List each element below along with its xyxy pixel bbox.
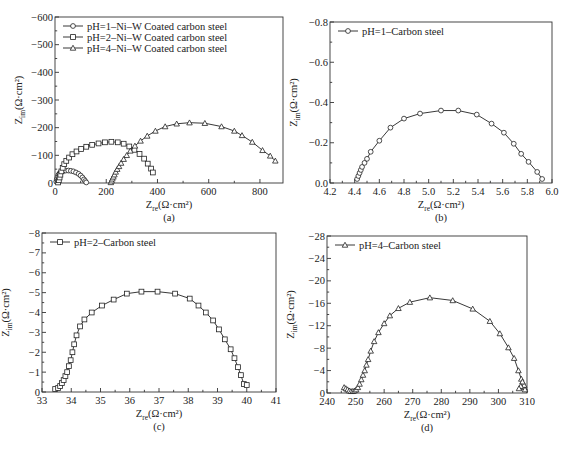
y-axis-title: Zim(Ω·cm²) [13, 75, 27, 124]
x-tick-label: 39 [212, 395, 223, 406]
legend-marker [346, 29, 351, 34]
legend-label: pH=1–Ni–W Coated carbon steel [87, 21, 227, 32]
legend-entry: pH=1–Ni–W Coated carbon steel [63, 21, 227, 32]
y-tick-label: 0 [320, 388, 325, 399]
chart-panel-b: 4.24.44.64.85.05.25.45.65.86.00.0−0.2−0.… [288, 17, 559, 225]
chart-panel-d: 2402502602702802903003100−4−8−12−16−20−2… [285, 231, 535, 435]
x-tick-label: 4.6 [373, 186, 386, 197]
data-point-marker [65, 370, 70, 375]
data-point-marker [217, 327, 222, 332]
legend-marker [71, 35, 76, 40]
data-point-marker [377, 138, 382, 143]
data-point-marker [68, 358, 73, 363]
data-point-marker [84, 144, 89, 149]
data-point-marker [487, 318, 493, 323]
plot-frame [327, 236, 527, 393]
x-axis-title: Zre(Ω·cm²) [146, 199, 193, 213]
data-point-marker [142, 156, 147, 161]
data-point-marker [144, 133, 150, 138]
data-point-marker [511, 355, 517, 360]
legend-entry: pH=4–Carbon steel [335, 240, 441, 251]
x-axis-title: Zre(Ω·cm²) [136, 408, 183, 422]
data-point-marker [232, 356, 237, 361]
data-point-marker [203, 310, 208, 315]
data-point-marker [365, 156, 370, 161]
series-line [344, 298, 525, 392]
data-point-marker [96, 141, 101, 146]
y-tick-label: −0.4 [309, 97, 329, 108]
x-tick-label: 40 [242, 395, 253, 406]
x-tick-label: 310 [519, 396, 535, 407]
data-point-marker [111, 297, 116, 302]
data-point-marker [196, 303, 201, 308]
data-point-marker [516, 368, 522, 373]
x-tick-label: 37 [154, 395, 165, 406]
x-tick-label: 5.4 [471, 186, 485, 197]
data-point-marker [150, 170, 155, 175]
series-line [58, 142, 153, 183]
series-circle [355, 108, 545, 181]
x-tick-label: 600 [201, 186, 217, 197]
y-tick-label: −2 [29, 347, 40, 358]
y-tick-label: −12 [309, 320, 325, 331]
x-tick-label: 41 [271, 395, 282, 406]
y-tick-label: −8 [314, 343, 325, 354]
plot-frame [42, 233, 276, 392]
data-point-marker [239, 373, 244, 378]
data-point-marker [228, 347, 233, 352]
data-point-marker [511, 141, 516, 146]
data-point-marker [474, 112, 479, 117]
series-square [56, 139, 156, 184]
y-tick-label: −500 [31, 39, 53, 50]
data-point-marker [187, 296, 192, 301]
data-point-marker [137, 152, 142, 157]
data-point-marker [145, 161, 150, 166]
data-point-marker [371, 339, 377, 344]
data-point-marker [249, 139, 255, 144]
data-point-marker [115, 140, 120, 145]
data-point-marker [67, 364, 72, 369]
data-point-marker [267, 153, 273, 158]
y-tick-label: −6 [29, 267, 40, 278]
x-tick-label: 5.6 [496, 186, 509, 197]
data-point-marker [506, 345, 512, 350]
y-tick-label: −600 [31, 12, 53, 23]
x-axis: 4.24.44.64.85.05.25.45.65.86.0 [323, 179, 558, 197]
data-point-marker [439, 108, 444, 113]
data-point-marker [74, 333, 79, 338]
x-tick-label: 6.0 [545, 186, 558, 197]
data-point-marker [109, 139, 114, 144]
x-tick-label: 300 [491, 396, 507, 407]
y-axis-title: Zim(Ω·cm²) [285, 290, 299, 339]
x-tick-label: 260 [376, 396, 392, 407]
y-tick-label: −4 [29, 307, 41, 318]
x-tick-label: 5.2 [447, 186, 460, 197]
chart-panel-c: 3334353637383940410−1−2−3−4−5−6−7−8Zre(Ω… [0, 228, 281, 434]
data-point-marker [388, 125, 393, 130]
data-point-marker [211, 318, 216, 323]
data-point-marker [402, 116, 407, 121]
data-point-marker [519, 151, 524, 156]
panel-caption: (d) [421, 422, 434, 434]
data-point-marker [72, 342, 77, 347]
x-tick-label: 200 [98, 186, 114, 197]
data-point-marker [89, 310, 94, 315]
y-tick-label: 0.0 [315, 178, 328, 189]
data-point-marker [418, 111, 423, 116]
chart-panel-a: 02004006008000−100−200−300−400−500−600Zr… [13, 12, 283, 225]
data-point-marker [244, 383, 249, 388]
data-point-marker [396, 306, 402, 311]
figure: 02004006008000−100−200−300−400−500−600Zr… [0, 0, 572, 450]
y-tick-label: −4 [314, 365, 326, 376]
y-tick-label: 0 [48, 178, 53, 189]
data-point-marker [540, 177, 545, 182]
data-point-marker [456, 108, 461, 113]
x-tick-label: 34 [66, 395, 77, 406]
data-point-marker [222, 337, 227, 342]
data-point-marker [100, 303, 105, 308]
data-point-marker [365, 357, 371, 362]
data-point-marker [502, 130, 507, 135]
x-tick-label: 38 [183, 395, 194, 406]
data-point-marker [173, 291, 178, 296]
y-tick-label: −24 [309, 253, 326, 264]
